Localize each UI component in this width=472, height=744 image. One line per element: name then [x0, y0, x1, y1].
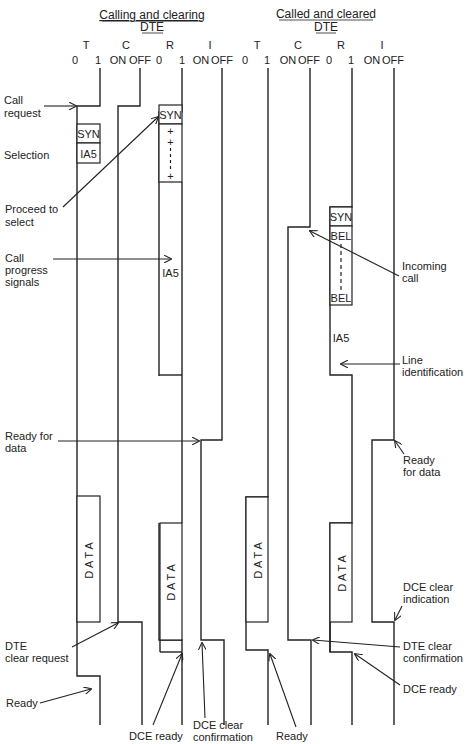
label-line: Incoming — [402, 260, 447, 272]
syn-label: SYN — [159, 109, 182, 121]
label-line: DTE clear — [403, 640, 452, 652]
state-label: 1 — [95, 54, 101, 66]
label-line: clear request — [5, 652, 69, 664]
state-label: 0 — [326, 54, 332, 66]
label-line: Ready — [6, 697, 38, 709]
state-label: ON — [280, 54, 297, 66]
label-line: DCE ready — [129, 730, 183, 742]
annotation-call-progress: Call progress signals — [5, 252, 171, 288]
called-header-line2: DTE — [314, 20, 338, 34]
label-line: call — [402, 272, 419, 284]
called-i-signal — [372, 68, 394, 725]
called-dte-header: Called and cleared DTE — [276, 7, 376, 34]
state-label: OFF — [298, 54, 320, 66]
called-t-signal — [246, 68, 268, 725]
label-line: Call — [4, 94, 23, 106]
state-label: OFF — [129, 54, 151, 66]
annotation-dte-clear-request: DTE clear request — [5, 623, 118, 664]
label-line: Ready — [403, 454, 435, 466]
label-line: for data — [403, 466, 441, 478]
state-label: ON — [193, 54, 210, 66]
label-line: Call — [5, 252, 24, 264]
col-called-r: R — [337, 39, 345, 51]
col-calling-r: R — [166, 39, 174, 51]
annotation-line-identification: Line identification — [341, 354, 463, 378]
called-r-signal — [330, 68, 352, 725]
data-label: DATA — [252, 539, 264, 579]
called-incoming-boxes: SYN BEL BEL IA5 — [330, 207, 353, 344]
calling-progress-boxes: SYN + + + IA5 — [159, 105, 182, 375]
col-called-i: I — [380, 39, 383, 51]
ia5-label: IA5 — [80, 148, 97, 160]
state-label: ON — [110, 54, 127, 66]
annotation-call-request: Call request — [4, 94, 76, 119]
label-line: Proceed to — [5, 203, 58, 215]
data-label: DATA — [83, 539, 95, 579]
label-line: identification — [402, 366, 463, 378]
column-headers: T C R I T C R I 0 1 ON OFF 0 1 ON OFF 0 … — [72, 39, 404, 66]
annotation-ready-left: Ready — [6, 689, 91, 709]
called-c-signal — [288, 68, 311, 725]
label-line: DTE — [5, 640, 27, 652]
annotation-dce-ready-bottom: DCE ready — [129, 654, 183, 742]
state-label: 0 — [242, 54, 248, 66]
bel-label: BEL — [331, 292, 352, 304]
calling-i-signal — [201, 68, 224, 725]
label-line: confirmation — [193, 731, 253, 743]
label-line: indication — [403, 593, 449, 605]
state-label: 0 — [156, 54, 162, 66]
calling-c-signal — [118, 68, 142, 725]
col-calling-i: I — [208, 39, 211, 51]
data-label: DATA — [165, 561, 177, 601]
state-label: OFF — [211, 54, 233, 66]
calling-header-line2: DTE — [140, 20, 164, 34]
ia5-label: IA5 — [333, 332, 350, 344]
annotation-ready-bottom: Ready — [270, 654, 308, 742]
label-line: Line — [402, 354, 423, 366]
label-line: select — [5, 216, 34, 228]
data-label: DATA — [336, 552, 348, 592]
label-line: request — [4, 107, 41, 119]
col-called-t: T — [254, 39, 261, 51]
plus-label: + — [167, 136, 173, 148]
bel-label: BEL — [331, 230, 352, 242]
ia5-label: IA5 — [162, 267, 179, 279]
calling-dte-header: Calling and clearing DTE — [99, 8, 204, 34]
col-calling-t: T — [83, 39, 90, 51]
calling-t-signal — [77, 68, 100, 725]
plus-label: + — [167, 170, 173, 182]
state-label: 1 — [348, 54, 354, 66]
called-header-line1: Called and cleared — [276, 7, 376, 21]
state-label: 1 — [264, 54, 270, 66]
annotation-dce-clear-indication: DCE clear indication — [395, 581, 453, 620]
label-line: signals — [5, 276, 40, 288]
annotation-selection: Selection — [4, 149, 49, 161]
col-calling-c: C — [122, 39, 130, 51]
annotation-ready-for-data-right: Ready for data — [395, 441, 441, 478]
syn-label: SYN — [330, 211, 353, 223]
syn-label: SYN — [77, 128, 100, 140]
label-line: DCE clear — [403, 581, 453, 593]
state-label: OFF — [382, 54, 404, 66]
state-label: 0 — [72, 54, 78, 66]
calling-selection-boxes: SYN IA5 — [77, 124, 100, 163]
called-data-boxes: DATA DATA — [246, 497, 352, 652]
state-label: ON — [364, 54, 381, 66]
label-line: confirmation — [403, 652, 463, 664]
label-line: progress — [5, 264, 48, 276]
state-label: 1 — [179, 54, 185, 66]
label-line: Ready — [276, 730, 308, 742]
label-line: DCE clear — [193, 719, 243, 731]
col-called-c: C — [294, 39, 302, 51]
label-line: DCE ready — [403, 683, 457, 695]
x21-timing-diagram: Calling and clearing DTE Called and clea… — [0, 0, 472, 744]
label-line: data — [5, 442, 27, 454]
annotation-dce-clear-confirmation: DCE clear confirmation — [193, 643, 253, 743]
label-line: Ready for — [5, 430, 53, 442]
